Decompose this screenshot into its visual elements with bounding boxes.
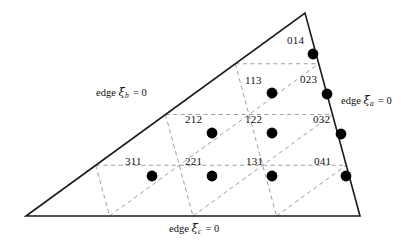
node-label: 212 — [185, 113, 202, 125]
edge-label-prefix: edge — [169, 223, 189, 234]
node-label: 041 — [314, 155, 331, 167]
node-marker — [336, 129, 347, 140]
node-marker — [308, 49, 319, 60]
node-label: 131 — [246, 155, 263, 167]
node-marker — [322, 89, 333, 100]
node-marker — [207, 128, 218, 139]
node-marker — [341, 171, 352, 182]
edge-label-prefix: edge — [96, 87, 116, 98]
edge-label-equals: = 0 — [376, 95, 391, 106]
node-label: 032 — [313, 113, 330, 125]
edge-label-prefix: edge — [341, 95, 361, 106]
node-label: 023 — [300, 73, 317, 85]
edge-label-equals: = 0 — [131, 87, 146, 98]
figure-canvas — [0, 0, 411, 250]
node-marker — [207, 171, 218, 182]
node-label: 122 — [245, 113, 262, 125]
edge-label-xi-a: edge ξa = 0 — [341, 93, 392, 108]
xi-symbol: ξ — [191, 221, 197, 235]
node-label: 014 — [287, 34, 304, 46]
node-label: 113 — [245, 74, 262, 86]
xi-subscript: c — [198, 227, 202, 236]
node-label: 221 — [185, 155, 202, 167]
node-label: 311 — [125, 155, 142, 167]
node-marker — [267, 128, 278, 139]
edge-label-equals: = 0 — [204, 223, 219, 234]
xi-subscript: a — [370, 99, 374, 108]
triangular-element-figure: 014113023212122032311221131041 edge ξb =… — [0, 0, 411, 250]
xi-symbol: ξ — [118, 85, 124, 99]
edge-label-xi-c: edge ξc = 0 — [169, 221, 219, 236]
edge-label-xi-b: edge ξb = 0 — [96, 85, 147, 100]
node-marker — [147, 171, 158, 182]
xi-subscript: b — [125, 91, 129, 100]
node-marker — [267, 171, 278, 182]
node-marker — [267, 88, 278, 99]
xi-symbol: ξ — [363, 93, 369, 107]
